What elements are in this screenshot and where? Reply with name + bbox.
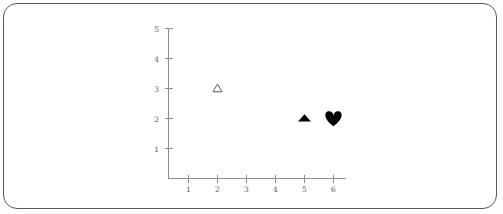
x-tick-label-2: 2 [215, 185, 220, 194]
x-tick-label-group: 1 2 3 4 5 6 [186, 185, 336, 194]
y-tick-label-5: 5 [154, 25, 159, 34]
y-tick-label-4: 4 [154, 55, 159, 64]
plot-svg: 1 2 3 4 5 1 2 3 4 5 6 [0, 0, 503, 214]
y-tick-label-group: 1 2 3 4 5 [154, 25, 159, 154]
filled-heart-marker [325, 111, 341, 126]
filled-triangle-marker [298, 114, 311, 121]
scatter-plot: 1 2 3 4 5 1 2 3 4 5 6 [0, 0, 503, 214]
x-tick-label-6: 6 [331, 185, 336, 194]
x-tick-label-1: 1 [186, 185, 191, 194]
open-triangle-marker [213, 84, 222, 92]
x-tick-label-5: 5 [302, 185, 307, 194]
screenshot-canvas: 1 2 3 4 5 1 2 3 4 5 6 [0, 0, 503, 214]
y-tick-label-2: 2 [154, 115, 159, 124]
x-tick-label-4: 4 [273, 185, 278, 194]
data-marker-group [213, 84, 342, 126]
y-tick-label-3: 3 [154, 85, 159, 94]
x-tick-label-3: 3 [244, 185, 249, 194]
y-tick-label-1: 1 [154, 145, 159, 154]
